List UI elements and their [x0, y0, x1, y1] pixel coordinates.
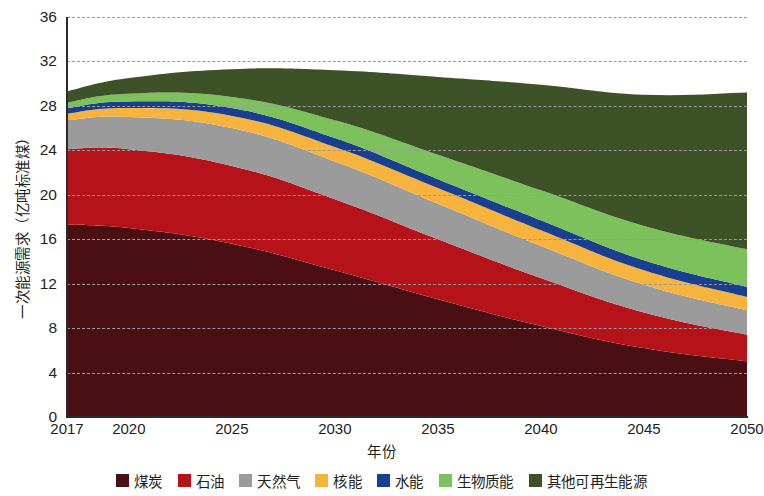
y-tick-label: 16	[17, 231, 57, 247]
y-tick-label: 8	[17, 320, 57, 336]
legend-swatch-icon	[239, 474, 252, 487]
gridline	[67, 150, 747, 151]
legend-item[interactable]: 石油	[178, 470, 225, 491]
gridline	[67, 195, 747, 196]
legend-item[interactable]: 水能	[377, 470, 424, 491]
x-tick-label: 2035	[421, 421, 454, 436]
legend-label: 天然气	[257, 470, 300, 491]
x-tick-label: 2045	[627, 421, 660, 436]
legend-swatch-icon	[377, 474, 390, 487]
legend-item[interactable]: 煤炭	[116, 470, 163, 491]
legend-item[interactable]: 其他可再生能源	[529, 470, 647, 491]
legend-swatch-icon	[116, 474, 129, 487]
plot-area: 04812162024283236 2017202020252030203520…	[67, 17, 747, 417]
legend-item[interactable]: 生物质能	[439, 470, 514, 491]
x-tick-label: 2020	[112, 421, 145, 436]
gridline	[67, 239, 747, 240]
legend-item[interactable]: 核能	[315, 470, 362, 491]
stacked-area-series	[67, 17, 747, 417]
y-tick-label: 20	[17, 187, 57, 203]
gridline	[67, 284, 747, 285]
legend-label: 生物质能	[457, 470, 514, 491]
legend-label: 煤炭	[134, 470, 163, 491]
legend-label: 其他可再生能源	[547, 470, 647, 491]
x-tick-label: 2025	[215, 421, 248, 436]
x-axis-line	[66, 416, 748, 418]
x-tick-label: 2050	[730, 421, 763, 436]
y-tick-label: 24	[17, 142, 57, 158]
y-tick-label: 32	[17, 53, 57, 69]
gridline	[67, 17, 747, 18]
plot-inner	[67, 17, 747, 417]
chart-legend: 煤炭石油天然气核能水能生物质能其他可再生能源	[0, 470, 763, 491]
legend-swatch-icon	[529, 474, 542, 487]
legend-label: 石油	[196, 470, 225, 491]
x-axis-title: 年份	[0, 440, 763, 461]
y-axis-title: 一次能源需求（亿吨标准煤）	[11, 100, 32, 350]
legend-swatch-icon	[315, 474, 328, 487]
y-axis-line	[66, 17, 68, 417]
y-tick-label: 12	[17, 276, 57, 292]
x-tick-label: 2017	[50, 421, 83, 436]
legend-item[interactable]: 天然气	[239, 470, 300, 491]
y-tick-label: 4	[17, 365, 57, 381]
gridline	[67, 328, 747, 329]
gridline	[67, 106, 747, 107]
legend-label: 核能	[333, 470, 362, 491]
gridline	[67, 61, 747, 62]
y-tick-label: 36	[17, 9, 57, 25]
gridline	[67, 373, 747, 374]
legend-swatch-icon	[178, 474, 191, 487]
legend-label: 水能	[395, 470, 424, 491]
x-tick-label: 2040	[524, 421, 557, 436]
x-tick-label: 2030	[318, 421, 351, 436]
legend-swatch-icon	[439, 474, 452, 487]
y-tick-label: 28	[17, 98, 57, 114]
